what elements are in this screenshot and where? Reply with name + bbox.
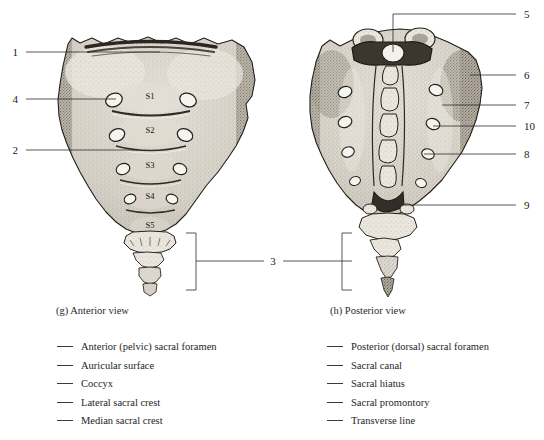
- posterior-sacrum-drawing: [300, 26, 490, 297]
- answer-blank[interactable]: [327, 365, 343, 366]
- anterior-coccyx: [124, 231, 176, 296]
- callout-2: 2: [13, 144, 19, 156]
- legend-item[interactable]: Auricular surface: [57, 360, 217, 379]
- legend-item-label: Posterior (dorsal) sacral foramen: [351, 341, 489, 352]
- legend-item-label: Sacral hiatus: [351, 378, 405, 389]
- answer-blank[interactable]: [327, 420, 343, 421]
- callout-7: 7: [524, 99, 530, 111]
- legend-item-label: Sacral promontory: [351, 397, 429, 408]
- anatomy-figure: S1 S2 S3 S4 S5: [0, 0, 544, 440]
- legend-item[interactable]: Median sacral crest: [57, 415, 217, 434]
- legend-column-left: Anterior (pelvic) sacral foramen Auricul…: [57, 341, 217, 434]
- answer-blank[interactable]: [327, 346, 343, 347]
- callout-6: 6: [524, 69, 530, 81]
- legend-column-right: Posterior (dorsal) sacral foramen Sacral…: [327, 341, 489, 434]
- legend-item[interactable]: Transverse line: [327, 415, 489, 434]
- callout-1: 1: [13, 46, 19, 58]
- vertebra-label-s1: S1: [146, 91, 155, 101]
- legend-item-label: Lateral sacral crest: [81, 397, 160, 408]
- answer-blank[interactable]: [57, 346, 73, 347]
- legend-item-label: Transverse line: [351, 415, 415, 426]
- legend-item[interactable]: Sacral hiatus: [327, 378, 489, 397]
- legend-item[interactable]: Coccyx: [57, 378, 217, 397]
- legend-item-label: Coccyx: [81, 378, 113, 389]
- posterior-coccyx: [359, 213, 417, 297]
- answer-blank[interactable]: [327, 383, 343, 384]
- callout-9: 9: [524, 199, 530, 211]
- caption-anterior-view: (g) Anterior view: [56, 305, 129, 316]
- legend-item-label: Anterior (pelvic) sacral foramen: [81, 341, 217, 352]
- vertebra-label-s2: S2: [146, 125, 155, 135]
- legend-item[interactable]: Sacral promontory: [327, 397, 489, 416]
- callout-8: 8: [524, 148, 530, 160]
- callout-5: 5: [524, 8, 530, 20]
- sacral-canal-opening: [352, 42, 432, 66]
- vertebra-label-s3: S3: [146, 160, 155, 170]
- vertebra-label-s4: S4: [146, 191, 156, 201]
- legend-item[interactable]: Posterior (dorsal) sacral foramen: [327, 341, 489, 360]
- legend-item[interactable]: Anterior (pelvic) sacral foramen: [57, 341, 217, 360]
- legend-item-label: Auricular surface: [81, 360, 154, 371]
- answer-blank[interactable]: [57, 383, 73, 384]
- answer-blank[interactable]: [327, 402, 343, 403]
- answer-blank[interactable]: [57, 420, 73, 421]
- anterior-sacrum-drawing: S1 S2 S3 S4 S5: [50, 28, 266, 296]
- answer-blank[interactable]: [57, 365, 73, 366]
- legend-item[interactable]: Sacral canal: [327, 360, 489, 379]
- answer-blanks-legend: Anterior (pelvic) sacral foramen Auricul…: [0, 341, 544, 436]
- callout-10: 10: [524, 120, 536, 132]
- legend-item-label: Sacral canal: [351, 360, 402, 371]
- answer-blank[interactable]: [57, 402, 73, 403]
- legend-item[interactable]: Lateral sacral crest: [57, 397, 217, 416]
- vertebra-label-s5: S5: [146, 220, 155, 230]
- callout-4: 4: [13, 93, 19, 105]
- caption-posterior-view: (h) Posterior view: [330, 305, 406, 316]
- callout-3: 3: [270, 255, 276, 267]
- legend-item-label: Median sacral crest: [81, 415, 163, 426]
